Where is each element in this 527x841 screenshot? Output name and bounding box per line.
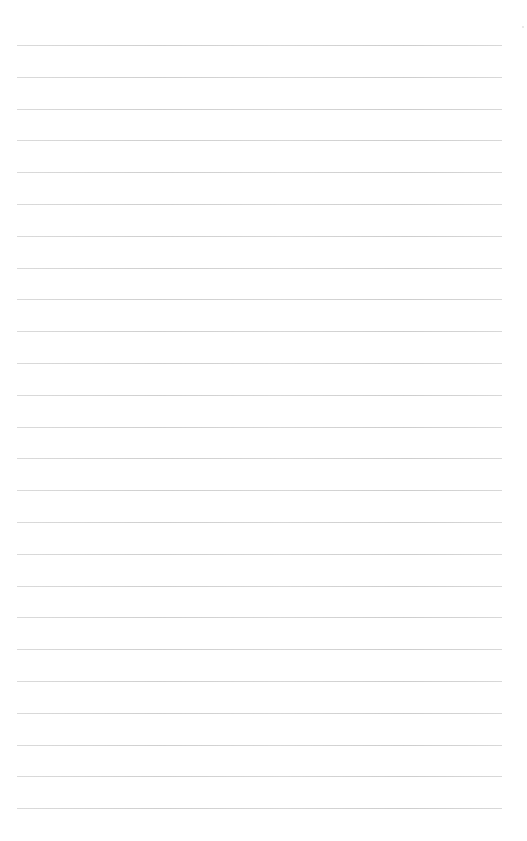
ruled-line [17, 808, 502, 809]
ruled-line [17, 554, 502, 555]
ruled-line [17, 522, 502, 523]
ruled-line [17, 427, 502, 428]
ruled-line [17, 45, 502, 46]
ruled-line [17, 586, 502, 587]
ruled-line [17, 363, 502, 364]
ruled-line [17, 617, 502, 618]
ruled-line [17, 713, 502, 714]
ruled-line [17, 299, 502, 300]
ruled-line [17, 681, 502, 682]
ruled-line [17, 204, 502, 205]
ruled-line [17, 109, 502, 110]
ruled-line [17, 458, 502, 459]
ruled-line [17, 172, 502, 173]
ruled-line [17, 745, 502, 746]
corner-mark [522, 26, 524, 28]
ruled-line [17, 395, 502, 396]
ruled-line [17, 268, 502, 269]
ruled-line [17, 331, 502, 332]
ruled-line [17, 236, 502, 237]
ruled-line [17, 140, 502, 141]
ruled-line [17, 649, 502, 650]
ruled-line [17, 490, 502, 491]
ruled-line [17, 77, 502, 78]
lined-paper-page [0, 0, 527, 841]
ruled-line [17, 776, 502, 777]
